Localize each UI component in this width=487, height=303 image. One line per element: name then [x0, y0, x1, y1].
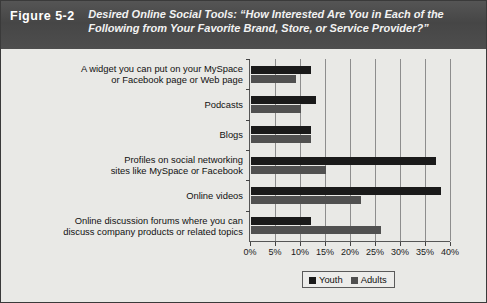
figure-container: Figure 5-2 Desired Online Social Tools: …: [0, 0, 487, 303]
legend-label: Youth: [319, 274, 343, 285]
category-label-line: Online videos: [15, 190, 243, 201]
x-axis-tick: [350, 242, 351, 246]
legend-entry-adults[interactable]: Adults: [351, 274, 387, 285]
x-gridline: [275, 59, 276, 241]
chart-plot-box: 0%5%10%15%20%25%30%35%40%: [249, 59, 450, 242]
bar-youth: [251, 126, 311, 134]
bar-youth: [251, 187, 441, 195]
category-label-line: discuss company products or related topi…: [15, 226, 243, 237]
category-label-line: Blogs: [15, 129, 243, 140]
x-gridline: [400, 59, 401, 241]
bar-adults: [251, 105, 301, 113]
y-axis-tick: [246, 89, 250, 90]
figure-number-label: Figure 5-2: [10, 7, 75, 23]
legend-swatch-icon: [309, 277, 316, 284]
bar-adults: [251, 135, 311, 143]
bar-adults: [251, 166, 326, 174]
x-axis-tick-label: 10%: [291, 247, 309, 257]
legend-label: Adults: [361, 274, 387, 285]
category-label: A widget you can put on your MySpaceor F…: [15, 63, 243, 85]
category-label: Online discussion forums where you candi…: [15, 215, 243, 237]
y-axis-tick: [246, 150, 250, 151]
bar-youth: [251, 217, 311, 225]
category-label-line: A widget you can put on your MySpace: [15, 63, 243, 74]
y-axis-tick: [246, 180, 250, 181]
category-label-line: Podcasts: [15, 99, 243, 110]
chart-plot-frame: 0%5%10%15%20%25%30%35%40% A widget you c…: [9, 55, 479, 295]
y-axis-tick: [246, 59, 250, 60]
y-axis-tick: [246, 120, 250, 121]
legend-entry-youth[interactable]: Youth: [309, 274, 343, 285]
x-gridline: [450, 59, 451, 241]
legend-swatch-icon: [351, 277, 358, 284]
chart-legend: YouthAdults: [302, 271, 395, 288]
chart-area: 0%5%10%15%20%25%30%35%40% A widget you c…: [9, 55, 479, 295]
x-axis-tick-label: 0%: [243, 247, 256, 257]
x-axis-tick: [275, 242, 276, 246]
x-gridline: [375, 59, 376, 241]
bar-adults: [251, 196, 361, 204]
x-axis-tick-label: 20%: [341, 247, 359, 257]
x-gridline: [350, 59, 351, 241]
x-axis-tick: [425, 242, 426, 246]
category-label: Profiles on social networkingsites like …: [15, 154, 243, 176]
bar-adults: [251, 226, 381, 234]
x-axis-tick-label: 25%: [366, 247, 384, 257]
x-axis-tick: [325, 242, 326, 246]
category-label: Podcasts: [15, 99, 243, 110]
bar-youth: [251, 66, 311, 74]
x-gridline: [325, 59, 326, 241]
y-axis-tick: [246, 211, 250, 212]
x-gridline: [300, 59, 301, 241]
category-label-line: or Facebook page or Web page: [15, 74, 243, 85]
category-label-line: Online discussion forums where you can: [15, 215, 243, 226]
x-axis-tick: [450, 242, 451, 246]
x-axis-tick-label: 35%: [416, 247, 434, 257]
category-label-line: Profiles on social networking: [15, 154, 243, 165]
bar-youth: [251, 96, 316, 104]
x-axis-tick-label: 30%: [391, 247, 409, 257]
x-axis-tick-label: 5%: [268, 247, 281, 257]
category-label-line: sites like MySpace or Facebook: [15, 165, 243, 176]
x-axis-tick: [300, 242, 301, 246]
category-label: Online videos: [15, 190, 243, 201]
x-axis-tick: [375, 242, 376, 246]
figure-header: Figure 5-2 Desired Online Social Tools: …: [1, 1, 487, 49]
figure-title: Desired Online Social Tools: “How Intere…: [88, 7, 444, 35]
bar-adults: [251, 75, 296, 83]
x-axis-tick: [400, 242, 401, 246]
category-label: Blogs: [15, 129, 243, 140]
x-axis-tick-label: 40%: [441, 247, 459, 257]
figure-title-line-2: Following from Your Favorite Brand, Stor…: [88, 21, 444, 35]
x-axis-tick-label: 15%: [316, 247, 334, 257]
figure-title-line-1: Desired Online Social Tools: “How Intere…: [88, 7, 444, 21]
x-axis-tick: [250, 242, 251, 246]
bar-youth: [251, 157, 436, 165]
x-gridline: [425, 59, 426, 241]
